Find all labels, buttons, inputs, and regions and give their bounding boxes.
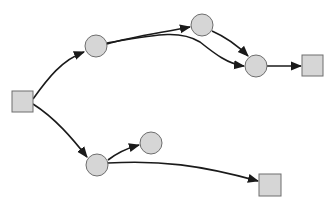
node-5[interactable] [302,55,323,76]
node-1[interactable] [12,91,33,112]
node-3[interactable] [191,14,213,36]
node-7-shape [140,132,162,154]
edge-6-7 [108,145,139,160]
node-2[interactable] [85,35,107,57]
edge-3-4 [212,31,248,56]
node-5-shape [302,55,323,76]
node-4-shape [245,55,267,77]
node-1-shape [12,91,33,112]
graph-diagram [0,0,332,206]
node-8[interactable] [259,174,281,196]
node-6[interactable] [86,154,108,176]
edge-6-8 [108,162,258,181]
node-6-shape [86,154,108,176]
edge-2-4 [107,35,244,66]
node-3-shape [191,14,213,36]
node-7[interactable] [140,132,162,154]
node-2-shape [85,35,107,57]
edge-1-6 [33,104,87,157]
edge-1-2 [33,52,84,99]
node-4[interactable] [245,55,267,77]
node-8-shape [259,174,281,196]
